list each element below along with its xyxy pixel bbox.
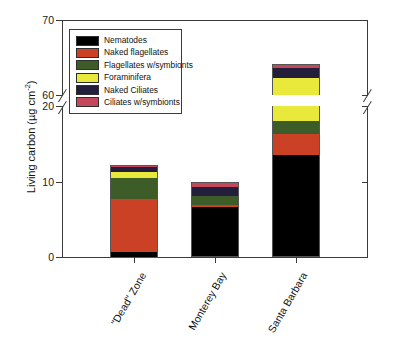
segment-foraminifera-upper <box>272 78 320 95</box>
y-axis-title-exponent: -2 <box>23 84 32 91</box>
segment-flagellates-w-symbionts <box>272 121 320 134</box>
plot-frame-top <box>62 20 368 21</box>
legend-swatch-nematodes <box>76 36 99 46</box>
x-tick-dead-zone <box>134 257 135 263</box>
legend-swatch-foraminifera <box>76 73 99 83</box>
segment-naked-flagellates <box>272 134 320 155</box>
segment-flagellates-w-symbionts <box>191 196 239 205</box>
x-axis-label-monterey-bay: Monterey Bay <box>173 270 228 344</box>
legend-label-ciliates-w-symbionts: Ciliates w/symbionts <box>104 98 180 107</box>
y-tick-70 <box>56 20 62 21</box>
y-tick-10 <box>56 182 62 183</box>
bar-santa-barbara-lower[interactable] <box>272 106 320 258</box>
legend-item-foraminifera[interactable]: Foraminifera <box>76 72 176 83</box>
x-tick-monterey-bay <box>215 257 216 263</box>
segment-nematodes <box>272 155 320 257</box>
segment-naked-ciliates <box>272 68 320 78</box>
segment-nematodes <box>191 207 239 257</box>
y-axis-upper-segment <box>62 20 63 96</box>
legend-swatch-naked-flagellates <box>76 48 99 58</box>
legend-label-nematodes: Nematodes <box>104 36 147 45</box>
segment-flagellates-w-symbionts <box>110 178 158 199</box>
chart-container: 70 60 20 10 0 Living carbon (µg cm-2) <box>0 0 394 344</box>
y-tick-label-70: 70 <box>14 15 54 26</box>
bar-santa-barbara-upper[interactable] <box>272 64 320 96</box>
legend-item-naked-flagellates[interactable]: Naked flagellates <box>76 47 176 58</box>
segment-foraminifera-lower <box>272 106 320 121</box>
segment-naked-flagellates <box>110 199 158 252</box>
x-axis-label-dead-zone: "Dead" Zone <box>93 270 148 344</box>
y-axis-title-tail: ) <box>25 81 37 85</box>
legend-item-flagellates-w-symbionts[interactable]: Flagellates w/symbionts <box>76 60 176 71</box>
legend-swatch-ciliates-w-symbionts <box>76 97 99 107</box>
legend-item-nematodes[interactable]: Nematodes <box>76 35 176 46</box>
legend-label-naked-flagellates: Naked flagellates <box>104 48 168 57</box>
y-axis-title: Living carbon (µg cm-2) <box>23 37 37 237</box>
legend-item-naked-ciliates[interactable]: Naked Ciliates <box>76 85 176 96</box>
y-axis-lower-segment <box>62 106 63 258</box>
y-tick-0 <box>56 257 62 258</box>
y-tick-right-10 <box>362 182 368 183</box>
plot-frame-right-upper <box>367 20 368 96</box>
y-axis-title-main: Living carbon (µg cm <box>25 91 37 193</box>
segment-naked-ciliates <box>191 187 239 196</box>
x-tick-santa-barbara <box>296 257 297 263</box>
legend-swatch-naked-ciliates <box>76 85 99 95</box>
y-tick-right-70 <box>362 20 368 21</box>
legend-label-foraminifera: Foraminifera <box>104 73 151 82</box>
legend-label-flagellates-w-symbionts: Flagellates w/symbionts <box>104 61 193 70</box>
legend: Nematodes Naked flagellates Flagellates … <box>69 29 182 114</box>
legend-swatch-flagellates-w-symbionts <box>76 60 99 70</box>
bar-dead-zone[interactable] <box>110 160 158 258</box>
bar-monterey-bay[interactable] <box>191 182 239 258</box>
legend-item-ciliates-w-symbionts[interactable]: Ciliates w/symbionts <box>76 97 176 108</box>
x-axis-label-santa-barbara: Santa Barbara <box>254 270 309 344</box>
y-tick-label-0: 0 <box>14 252 54 263</box>
legend-label-naked-ciliates: Naked Ciliates <box>104 86 158 95</box>
